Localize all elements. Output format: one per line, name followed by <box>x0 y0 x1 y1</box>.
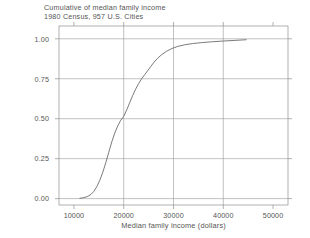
x-axis-title: Median family income (dollars) <box>59 221 288 230</box>
x-tick-label: 10000 <box>49 211 99 220</box>
x-tick-label: 50000 <box>248 211 298 220</box>
data-series <box>80 40 246 199</box>
gridlines <box>59 26 288 205</box>
y-tick-label: 0.50 <box>15 114 49 123</box>
x-tick-label: 40000 <box>198 211 248 220</box>
y-tick-label: 0.25 <box>15 154 49 163</box>
x-tick-label: 20000 <box>99 211 149 220</box>
y-tick-label: 1.00 <box>15 35 49 44</box>
y-tick-label: 0.00 <box>15 194 49 203</box>
x-tick-label: 30000 <box>149 211 199 220</box>
y-tick-label: 0.75 <box>15 75 49 84</box>
figure: Cumulative of median family income 1980 … <box>0 0 310 238</box>
